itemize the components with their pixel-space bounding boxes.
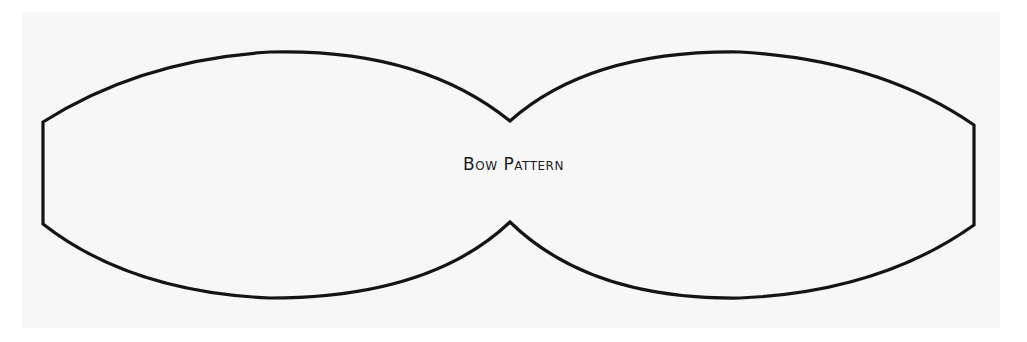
- document-page: Bow Pattern: [0, 0, 1027, 342]
- pattern-title: Bow Pattern: [0, 152, 1027, 176]
